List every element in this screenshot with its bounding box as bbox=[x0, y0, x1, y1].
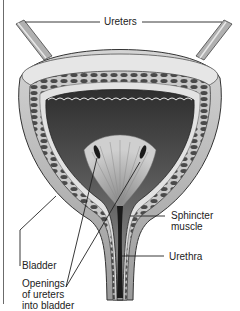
label-ureters: Ureters bbox=[104, 16, 137, 27]
label-urethra: Urethra bbox=[169, 251, 202, 262]
label-bladder: Bladder bbox=[22, 260, 56, 271]
label-ureter-openings: Openings of ureters into bladder bbox=[22, 278, 74, 311]
label-sphincter-muscle: Sphincter muscle bbox=[171, 210, 213, 232]
